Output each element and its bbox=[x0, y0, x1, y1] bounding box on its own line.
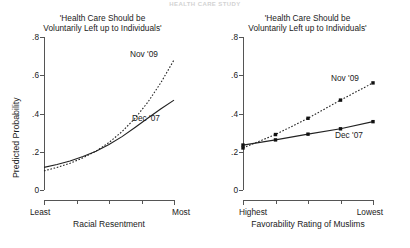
x-tick-mark bbox=[308, 200, 309, 204]
y-tick-label: .8 bbox=[20, 33, 39, 41]
y-tick-label: 0 bbox=[20, 186, 39, 194]
running-header: HEALTH CARE STUDY bbox=[0, 0, 410, 7]
chart-panel-left: 'Health Care Should be Voluntarily Left … bbox=[0, 10, 205, 248]
panel-left-title-line2: Voluntarily Left up to Individuals' bbox=[0, 23, 205, 33]
x-tick-label-high: Most bbox=[172, 207, 190, 217]
series-label-dec07-right: Dec '07 bbox=[335, 130, 363, 140]
y-tick-label: .6 bbox=[219, 71, 238, 79]
panel-left-title: 'Health Care Should be Voluntarily Left … bbox=[0, 13, 205, 33]
figure-container: HEALTH CARE STUDY 'Health Care Should be… bbox=[0, 0, 410, 248]
panel-right-series-lines bbox=[243, 37, 373, 190]
x-tick-label-low: Highest bbox=[239, 207, 267, 217]
x-axis-end-cap bbox=[243, 200, 244, 205]
y-tick-label: .2 bbox=[20, 148, 39, 156]
y-tick-label: .8 bbox=[219, 33, 238, 41]
panel-right-title: 'Health Care Should be Voluntarily Left … bbox=[205, 13, 410, 33]
x-tick-mark bbox=[77, 200, 78, 204]
panel-left-plot-area: 0 .2 .4 .6 .8 Nov '09 Dec '07 Least Most… bbox=[44, 37, 174, 190]
y-tick-mark bbox=[239, 190, 243, 191]
x-axis-end-cap bbox=[373, 200, 374, 205]
x-tick-mark bbox=[341, 200, 342, 204]
x-axis-end-cap bbox=[44, 200, 45, 205]
y-tick-label: .4 bbox=[219, 110, 238, 118]
y-tick-label: .2 bbox=[219, 148, 238, 156]
panel-right-plot-area: 0 .2 .4 .6 .8 bbox=[243, 37, 373, 190]
chart-panel-right: 'Health Care Should be Voluntarily Left … bbox=[205, 10, 410, 248]
y-tick-label: .4 bbox=[20, 110, 39, 118]
panel-right-title-line1: 'Health Care Should be bbox=[205, 13, 410, 23]
y-tick-label: .6 bbox=[20, 71, 39, 79]
panel-left-x-axis-title: Racial Resentment bbox=[44, 219, 174, 229]
x-tick-label-high: Lowest bbox=[357, 207, 383, 217]
y-tick-mark bbox=[40, 190, 44, 191]
x-axis-end-cap bbox=[174, 200, 175, 205]
series-label-nov09-right: Nov '09 bbox=[331, 73, 359, 83]
x-tick-mark bbox=[276, 200, 277, 204]
x-tick-label-low: Least bbox=[30, 207, 50, 217]
panel-left-title-line1: 'Health Care Should be bbox=[0, 13, 205, 23]
x-tick-mark bbox=[109, 200, 110, 204]
series-label-nov09-left: Nov '09 bbox=[130, 49, 158, 59]
series-label-dec07-left: Dec '07 bbox=[132, 113, 160, 123]
panel-right-x-axis-title: Favorability Rating of Muslims bbox=[243, 219, 373, 229]
series-line-dec07 bbox=[44, 100, 174, 167]
y-tick-label: 0 bbox=[219, 186, 238, 194]
x-tick-mark bbox=[142, 200, 143, 204]
